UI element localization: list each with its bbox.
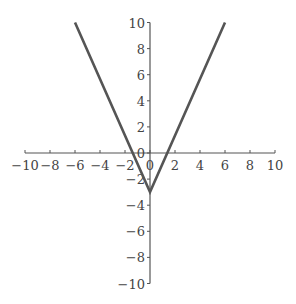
y-tick-label: 6: [137, 68, 145, 83]
y-tick-label: −10: [118, 277, 145, 292]
y-tick-label: −6: [126, 224, 145, 239]
x-tick-label: 6: [221, 158, 229, 173]
y-tick-label: 0: [137, 146, 145, 161]
x-tick-label: −6: [65, 158, 84, 173]
x-tick-label: −4: [90, 158, 109, 173]
chart: −10−8−6−4−20246810 −10−8−6−4−20246810: [0, 0, 296, 304]
x-tick-label: 4: [196, 158, 204, 173]
x-tick-label: −2: [115, 158, 134, 173]
x-tick-label: 2: [171, 158, 179, 173]
x-tick-label: −10: [11, 158, 38, 173]
x-tick-label: −8: [40, 158, 59, 173]
y-tick-label: 10: [128, 16, 145, 31]
y-tick-label: −8: [126, 250, 145, 265]
x-tick-label: 10: [267, 158, 284, 173]
y-tick-label: −4: [126, 198, 145, 213]
y-tick-label: 8: [137, 42, 145, 57]
x-tick-label: 8: [246, 158, 254, 173]
y-tick-label: 4: [137, 94, 145, 109]
y-tick-label: 2: [137, 120, 145, 135]
